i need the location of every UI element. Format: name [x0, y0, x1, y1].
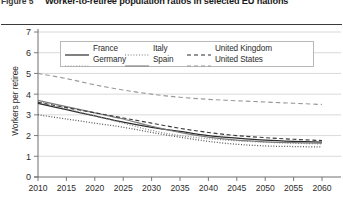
x-tick-label: 2010 [28, 183, 47, 193]
legend-label-united-states: United States [215, 55, 263, 65]
legend-entry-italy: Italy [124, 44, 186, 54]
x-tick-marks [38, 177, 322, 181]
solid-line-icon [124, 56, 150, 64]
dashed-line-icon [186, 56, 212, 64]
x-tick-label: 2030 [142, 183, 161, 193]
series-line-united-states [38, 73, 322, 104]
dotted-line-icon [64, 56, 90, 64]
y-tick-label: 7 [26, 27, 31, 37]
y-tick-labels: 01234567 [26, 27, 31, 182]
y-tick-label: 4 [26, 90, 31, 100]
x-tick-label: 2035 [170, 183, 189, 193]
legend-row: Germany Spain United States [64, 54, 310, 65]
header-divider [1, 24, 342, 25]
x-tick-labels: 2010201520202025203020352040204520502055… [28, 183, 331, 193]
legend-entry-spain: Spain [124, 55, 186, 65]
legend-entry-france: France [64, 44, 124, 54]
solid-line-icon [64, 45, 90, 53]
legend-label-italy: Italy [153, 44, 168, 54]
y-tick-label: 2 [26, 131, 31, 141]
x-tick-label: 2040 [199, 183, 218, 193]
x-tick-label: 2045 [227, 183, 246, 193]
legend-entry-united-states: United States [186, 55, 296, 65]
y-tick-label: 0 [26, 172, 31, 182]
y-tick-label: 5 [26, 69, 31, 79]
y-tick-label: 3 [26, 110, 31, 120]
figure-header: Figure 5 Worker-to-retiree population ra… [0, 0, 343, 8]
x-tick-label: 2020 [85, 183, 104, 193]
legend-entry-germany: Germany [64, 55, 124, 65]
x-tick-label: 2060 [312, 183, 331, 193]
dashed-line-icon [186, 45, 212, 53]
x-tick-label: 2025 [114, 183, 133, 193]
y-tick-marks [34, 32, 38, 177]
legend-label-spain: Spain [153, 55, 173, 65]
figure-title: Worker-to-retiree population ratios in s… [45, 0, 335, 8]
legend-label-germany: Germany [93, 55, 126, 65]
x-tick-label: 2055 [284, 183, 303, 193]
chart-legend: France Italy United Kingdom Germany Sp [60, 41, 314, 67]
data-series [38, 73, 322, 147]
y-tick-label: 1 [26, 152, 31, 162]
legend-label-united-kingdom: United Kingdom [215, 44, 272, 54]
y-axis-title: Workers per retiree [10, 61, 20, 141]
legend-label-france: France [93, 44, 118, 54]
series-line-united-kingdom [38, 102, 322, 140]
x-tick-label: 2050 [256, 183, 275, 193]
legend-entry-united-kingdom: United Kingdom [186, 44, 296, 54]
y-tick-label: 6 [26, 48, 31, 58]
legend-row: France Italy United Kingdom [64, 43, 310, 54]
x-tick-label: 2015 [57, 183, 76, 193]
figure-label: Figure 5 [0, 0, 45, 7]
dotted-line-icon [124, 45, 150, 53]
